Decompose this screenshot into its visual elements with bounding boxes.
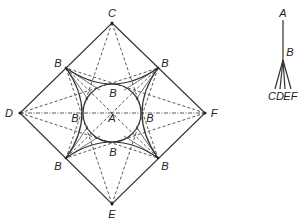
corner-curve-ul-2 <box>66 68 88 100</box>
right-figure: A B C D E F <box>268 7 299 102</box>
label-d: D <box>5 107 13 119</box>
corner-curve-ul-1 <box>66 68 100 90</box>
label-b-ul: B <box>54 57 61 69</box>
corner-curve-ll-2 <box>66 126 88 158</box>
label-b-bottom: B <box>109 146 116 158</box>
corner-curve-lr-2 <box>136 126 158 158</box>
dash-f-bll <box>66 113 205 158</box>
right-label-c: C <box>268 90 276 102</box>
label-b-left: B <box>71 112 78 124</box>
label-b-right: B <box>146 112 153 124</box>
vertex-b-ul <box>65 67 68 70</box>
vertex-b-lr <box>157 157 160 160</box>
vertex-d <box>19 112 22 115</box>
label-b-ur: B <box>161 57 168 69</box>
corner-curve-ur-1 <box>124 68 158 90</box>
vertex-b-ur <box>157 67 160 70</box>
right-label-a: A <box>278 7 286 19</box>
label-b-lr: B <box>161 160 168 172</box>
label-b-ll: B <box>54 160 61 172</box>
label-c: C <box>108 7 116 19</box>
corner-curve-ur-2 <box>136 68 158 100</box>
diagram-canvas: C E D F A B B B B B B B B A B C D E F <box>0 0 307 221</box>
left-figure: C E D F A B B B B B B B B <box>5 7 219 220</box>
vertex-f <box>204 112 207 115</box>
dash-e-bul <box>66 68 112 204</box>
right-label-f: F <box>291 90 299 102</box>
label-f: F <box>211 107 219 119</box>
vertex-c <box>111 22 114 25</box>
label-b-top: B <box>109 87 116 99</box>
vertex-b-ll <box>65 157 68 160</box>
label-e: E <box>108 208 116 220</box>
vertex-e <box>111 203 114 206</box>
label-a: A <box>107 112 115 124</box>
arc-top <box>66 68 158 84</box>
right-label-b: B <box>286 46 293 58</box>
